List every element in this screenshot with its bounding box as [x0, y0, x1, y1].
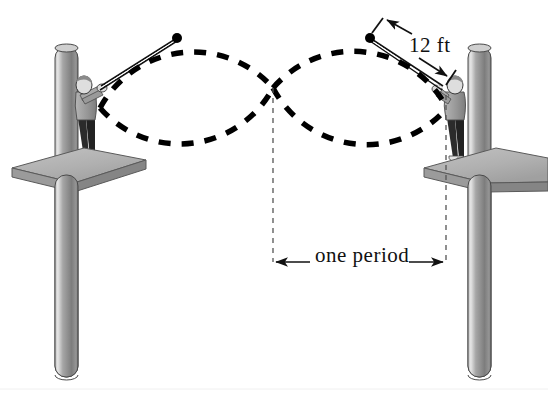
right-pole-lower: [468, 175, 491, 380]
rope-length-label: 12 ft: [409, 33, 451, 58]
swing-arc-left-lower: [100, 88, 273, 144]
period-label: one period: [315, 243, 409, 268]
left-pole-lower: [55, 175, 78, 380]
rope-tick-upper: [372, 18, 383, 33]
swing-arc-left-upper: [100, 52, 273, 108]
arrow-up-left-icon: [387, 20, 412, 34]
left-platform: [12, 148, 146, 192]
swing-arc-right-lower: [273, 88, 447, 145]
pivot-dot-icon: [365, 33, 375, 43]
rope-held-by-left-person: [100, 38, 177, 90]
diagram-canvas: [0, 0, 548, 398]
pivot-dot-icon: [172, 33, 182, 43]
pendulum-diagram-figure: 12 ft one period: [0, 0, 548, 398]
